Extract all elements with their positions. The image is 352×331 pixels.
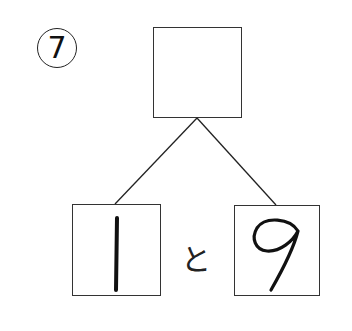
number-box-left <box>72 204 161 296</box>
handwritten-one <box>73 205 162 297</box>
number-box-right <box>234 205 320 296</box>
connector-text: と <box>181 235 211 279</box>
handwritten-nine <box>235 206 321 297</box>
